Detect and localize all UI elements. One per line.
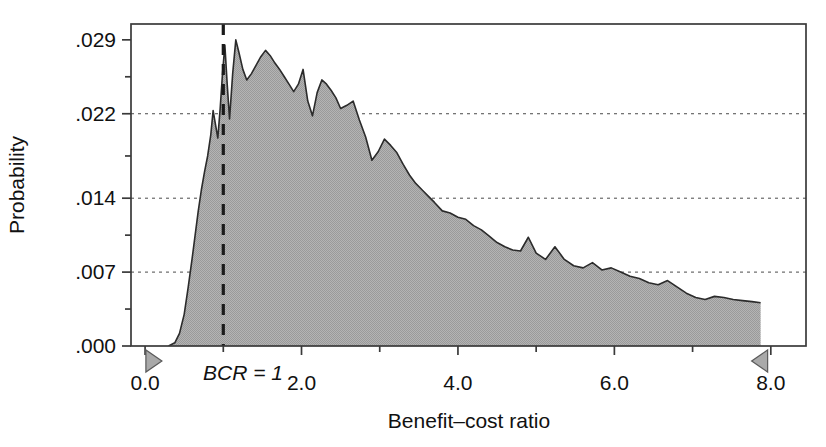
y-tick-label: .000: [75, 334, 116, 357]
y-tick-label: .022: [75, 102, 116, 125]
x-axis-title: Benefit–cost ratio: [388, 409, 550, 432]
x-tick-label: 6.0: [600, 371, 629, 394]
chart-figure: .000.007.014.022.029 0.02.04.06.08.0 BCR…: [0, 0, 826, 447]
x-tick-label: 8.0: [756, 371, 785, 394]
y-axis-ticks: [122, 40, 131, 346]
y-axis-tick-labels: .000.007.014.022.029: [75, 28, 116, 357]
x-tick-label: 4.0: [443, 371, 472, 394]
y-axis-title: Probability: [5, 135, 28, 234]
x-axis-ticks: [145, 346, 771, 355]
density-plot-svg: .000.007.014.022.029 0.02.04.06.08.0 BCR…: [0, 0, 826, 447]
bcr-annotation-label: BCR = 1: [203, 361, 283, 384]
x-tick-label: 0.0: [130, 371, 159, 394]
lower-bound-marker: [146, 350, 162, 372]
upper-bound-marker: [752, 350, 768, 372]
y-tick-label: .007: [75, 260, 116, 283]
x-tick-label: 2.0: [287, 371, 316, 394]
y-tick-label: .029: [75, 28, 116, 51]
y-tick-label: .014: [75, 186, 116, 209]
